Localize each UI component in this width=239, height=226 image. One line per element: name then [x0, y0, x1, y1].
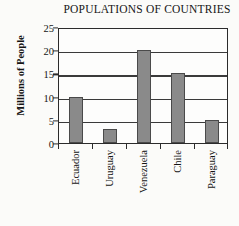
y-axis-tick-label: 10 [34, 92, 54, 103]
y-axis-tick-labels: 0510152025 [30, 28, 54, 144]
x-axis-tick-mark [126, 144, 127, 149]
y-axis-tick-label: 5 [34, 115, 54, 126]
y-axis-tick-label: 20 [34, 46, 54, 57]
bar [205, 120, 219, 143]
bar [171, 73, 185, 143]
bar-chart-figure: POPULATIONS OF COUNTRIES Millions of Peo… [0, 0, 239, 226]
bar [103, 129, 117, 143]
x-axis-tick-mark [58, 144, 59, 149]
y-axis-tick-label: 25 [34, 23, 54, 34]
x-axis-label-slot: Ecuador [58, 150, 92, 224]
x-axis-tick-label: Venezuela [138, 150, 149, 193]
x-axis-tick-mark [227, 144, 228, 149]
y-axis-tick-label: 15 [34, 69, 54, 80]
x-axis-tick-label: Chile [172, 150, 183, 173]
plot-area [58, 28, 228, 144]
x-axis-tick-mark [194, 144, 195, 149]
bar [137, 50, 151, 143]
x-axis-tick-label: Ecuador [70, 150, 81, 185]
chart-title: POPULATIONS OF COUNTRIES [56, 3, 238, 15]
x-axis-tick-label: Paraguay [206, 150, 217, 189]
x-axis-label-slot: Uruguay [92, 150, 126, 224]
x-axis-tick-mark [160, 144, 161, 149]
x-axis-label-slot: Venezuela [126, 150, 160, 224]
x-axis-label-slot: Paraguay [194, 150, 228, 224]
y-axis-tick-label: 0 [34, 139, 54, 150]
x-axis-tick-label: Uruguay [104, 150, 115, 187]
y-axis-title: Millions of People [15, 17, 26, 135]
x-axis-tick-labels: EcuadorUruguayVenezuelaChileParaguay [58, 150, 228, 224]
x-axis-label-slot: Chile [160, 150, 194, 224]
x-axis-tick-mark [92, 144, 93, 149]
bar [69, 97, 83, 143]
